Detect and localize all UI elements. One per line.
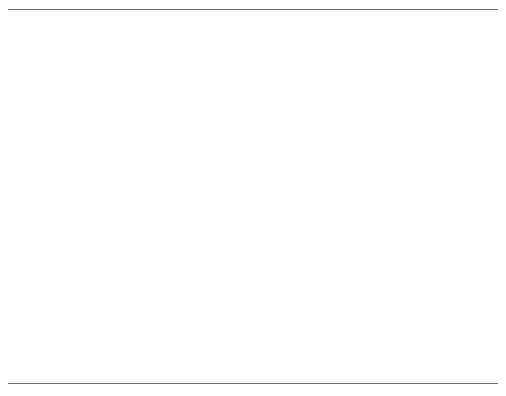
bottom-rule bbox=[8, 383, 498, 384]
figure-page bbox=[0, 0, 506, 396]
panel-grid bbox=[0, 12, 506, 380]
top-rule bbox=[8, 9, 498, 10]
